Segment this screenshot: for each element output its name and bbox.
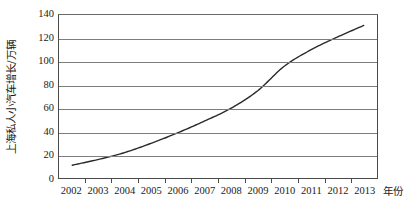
x-axis-tick <box>245 179 246 183</box>
x-axis-tick <box>165 179 166 183</box>
gridline <box>59 109 377 110</box>
y-tick-label: 60 <box>20 103 54 113</box>
y-tick-label: 80 <box>20 80 54 90</box>
gridline <box>59 39 377 40</box>
y-axis-title: 上海私人小汽车增长/万辆 <box>3 14 19 180</box>
y-tick-label: 100 <box>20 56 54 66</box>
y-tick-label: 120 <box>20 33 54 43</box>
y-tick-label: 140 <box>20 9 54 19</box>
y-axis-title-label: 上海私人小汽车增长/万辆 <box>6 40 17 154</box>
x-tick-label: 2013 <box>345 185 385 197</box>
x-axis-tick <box>298 179 299 183</box>
x-axis-tick <box>111 179 112 183</box>
y-tick-label: 20 <box>20 150 54 160</box>
x-axis-tick <box>85 179 86 183</box>
gridline <box>59 133 377 134</box>
x-axis-tick <box>325 179 326 183</box>
gridline <box>59 62 377 63</box>
x-axis-tick <box>351 179 352 183</box>
y-axis-tick-labels: 020406080100120140 <box>20 0 54 209</box>
x-axis-tick <box>191 179 192 183</box>
gridline <box>59 156 377 157</box>
x-axis-title: 年份 <box>383 185 403 197</box>
x-axis-tick <box>138 179 139 183</box>
plot-area <box>58 14 378 179</box>
y-tick-label: 0 <box>20 174 54 184</box>
gridline <box>59 86 377 87</box>
y-tick-label: 40 <box>20 127 54 137</box>
x-axis-tick <box>271 179 272 183</box>
x-axis-tick <box>218 179 219 183</box>
line-chart: 上海私人小汽车增长/万辆 020406080100120140 20022003… <box>0 0 409 209</box>
